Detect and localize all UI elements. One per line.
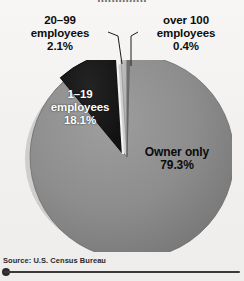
label-1-19-line2: employees [32, 101, 128, 114]
label-20-99-line2: employees [8, 27, 112, 40]
label-owner-only-value: 79.3% [124, 159, 230, 172]
label-1-19-line1: 1–19 [32, 88, 128, 101]
label-20-99-employees: 20–99 employees 2.1% [8, 14, 112, 53]
label-20-99-line1: 20–99 [8, 14, 112, 27]
cropped-title-remnant: .............. [0, 0, 244, 5]
label-over-100-line1: over 100 [134, 14, 238, 27]
label-owner-only-line1: Owner only [124, 146, 230, 159]
footer-divider [4, 271, 240, 273]
label-over-100-employees: over 100 employees 0.4% [134, 14, 238, 53]
label-20-99-value: 2.1% [8, 40, 112, 53]
label-owner-only: Owner only 79.3% [124, 146, 230, 173]
source-note: Source: U.S. Census Bureau [3, 256, 106, 265]
label-over-100-value: 0.4% [134, 40, 238, 53]
label-1-19-value: 18.1% [32, 114, 128, 127]
label-over-100-line2: employees [134, 27, 238, 40]
chart-figure: .............. [0, 0, 244, 281]
label-1-19-employees: 1–19 employees 18.1% [32, 88, 128, 127]
